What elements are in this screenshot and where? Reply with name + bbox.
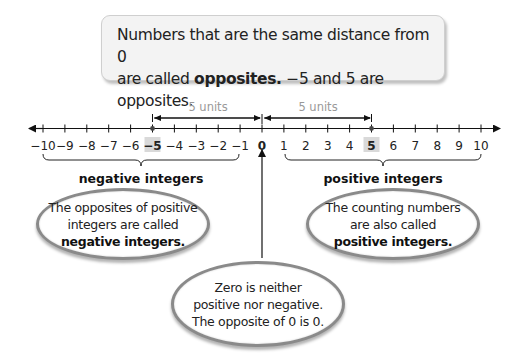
bubble-text: The counting numbers	[325, 199, 460, 216]
distance-label-positive: 5 units	[298, 100, 337, 114]
positive-integers-bubble: The counting numbers are also called pos…	[306, 188, 480, 260]
tick-label: 4	[346, 139, 354, 153]
bubble-text: The opposites of positive	[48, 199, 197, 216]
bubble-text: The opposite of 0 is 0.	[192, 313, 324, 330]
bubble-text: positive nor negative.	[193, 296, 323, 313]
tick-label: −6	[122, 139, 140, 153]
distance-markers: 5 units 5 units	[153, 100, 372, 124]
tick-label: 10	[473, 139, 488, 153]
tick-label: −1	[231, 139, 249, 153]
tick-labels: −10−9−8−7−6−5−4−3−2−1012345678910	[30, 137, 488, 153]
positive-brace	[285, 154, 481, 166]
tick-label: 3	[324, 139, 332, 153]
tick-marks	[43, 125, 481, 133]
bubble-term: negative integers.	[61, 233, 185, 250]
tick-label: 7	[411, 139, 419, 153]
negative-integers-bubble: The opposites of positive integers are c…	[36, 188, 210, 260]
tick-label: −9	[56, 139, 74, 153]
tick-label: −3	[187, 139, 205, 153]
point-negative-five	[150, 126, 155, 131]
bubble-text: integers are called	[68, 216, 179, 233]
tick-label: 8	[433, 139, 441, 153]
distance-label-negative: 5 units	[188, 100, 227, 114]
bubble-term: positive integers.	[334, 233, 453, 250]
point-positive-five	[369, 126, 374, 131]
zero-bubble: Zero is neither positive nor negative. T…	[171, 261, 345, 347]
positive-integers-label: positive integers	[323, 171, 442, 186]
tick-label: −5	[143, 139, 161, 153]
tick-label: −7	[100, 139, 118, 153]
tick-label: −2	[209, 139, 227, 153]
tick-label: 6	[390, 139, 398, 153]
tick-label: −8	[78, 139, 96, 153]
tick-label: 1	[280, 139, 288, 153]
bubble-text: Zero is neither	[215, 279, 302, 296]
tick-label: 9	[455, 139, 463, 153]
bubble-text: are also called	[350, 216, 436, 233]
tick-label: 2	[302, 139, 310, 153]
tick-label: −10	[30, 139, 55, 153]
tick-label: −4	[166, 139, 184, 153]
negative-brace	[43, 154, 239, 166]
tick-label: 5	[367, 139, 375, 153]
negative-integers-label: negative integers	[79, 171, 204, 186]
